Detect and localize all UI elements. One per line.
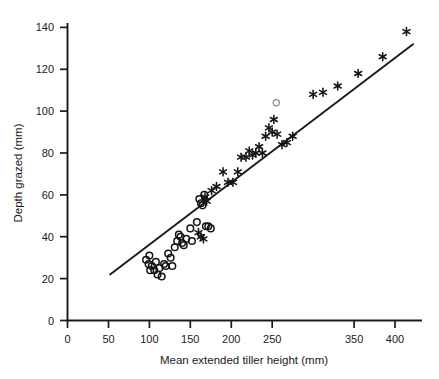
data-point-circle: [194, 219, 201, 226]
x-axis-tick-labels: 0 50 100 150 200 250 350 400: [64, 333, 404, 345]
x-tick-label: 400: [386, 333, 404, 345]
x-tick-label: 50: [102, 333, 114, 345]
y-axis-tick-labels: 0 20 40 60 80 100 120 140: [36, 21, 54, 326]
x-tick-label: 100: [140, 333, 158, 345]
y-tick-label: 80: [42, 147, 54, 159]
data-points-layer: [143, 28, 410, 280]
y-axis-title: Depth grazed (mm): [12, 123, 24, 222]
scatter-plot-svg: 0 20 40 60 80 100 120 140 Depth grazed (…: [0, 0, 439, 379]
data-point-circle: [187, 225, 194, 232]
x-axis-ticks: [68, 321, 396, 329]
data-point-circle: [169, 263, 176, 270]
data-point-circle: [153, 259, 160, 266]
y-tick-label: 40: [42, 231, 54, 243]
x-axis-title: Mean extended tiller height (mm): [160, 354, 328, 366]
regression-line-segment: [110, 44, 413, 274]
y-tick-label: 60: [42, 189, 54, 201]
x-tick-label: 250: [263, 333, 281, 345]
data-point-circle-faint: [273, 100, 279, 106]
y-tick-label: 100: [36, 105, 54, 117]
y-axis-group: 0 20 40 60 80 100 120 140 Depth grazed (…: [12, 21, 68, 326]
x-tick-label: 150: [181, 333, 199, 345]
regression-line: [110, 44, 413, 274]
y-tick-label: 140: [36, 21, 54, 33]
y-tick-label: 0: [48, 315, 54, 327]
y-tick-label: 20: [42, 273, 54, 285]
x-tick-label: 350: [345, 333, 363, 345]
x-tick-label: 0: [64, 333, 70, 345]
y-tick-label: 120: [36, 63, 54, 75]
x-axis-group: 0 50 100 150 200 250 350 400 Mean extend…: [64, 321, 421, 367]
x-tick-label: 200: [222, 333, 240, 345]
y-axis-ticks: [60, 27, 68, 320]
